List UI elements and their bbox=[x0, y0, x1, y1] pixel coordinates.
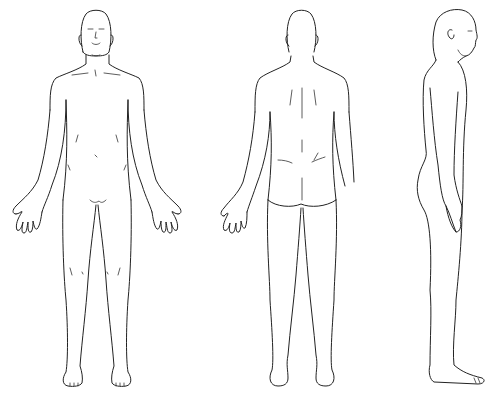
body-outline-svg bbox=[0, 0, 496, 395]
front-right-leg bbox=[98, 200, 131, 386]
front-view-figure bbox=[13, 10, 181, 386]
side-head bbox=[433, 10, 477, 63]
back-head bbox=[287, 10, 316, 52]
body-diagram bbox=[0, 0, 496, 395]
back-view-figure bbox=[221, 10, 354, 386]
side-view-figure bbox=[417, 10, 484, 385]
front-left-leg bbox=[63, 200, 96, 386]
